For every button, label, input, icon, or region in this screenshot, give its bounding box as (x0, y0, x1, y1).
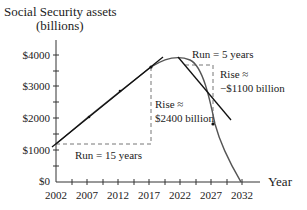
y-tick-label: $0 (39, 175, 51, 187)
point-2017 (149, 65, 152, 68)
chart-title: Social Security assets (4, 4, 117, 19)
point (119, 90, 122, 93)
y-tick-label: $4000 (23, 49, 51, 61)
x-tick-label: 2017 (138, 189, 161, 201)
annotation-rise-label: Rise ≈ (220, 68, 248, 80)
x-tick-label: 2002 (45, 189, 67, 201)
x-axis-label: Year (268, 174, 293, 189)
tangent-line-2017 (52, 57, 163, 147)
y-tick-label: $1000 (23, 144, 51, 156)
x-tick-label: 2012 (107, 189, 129, 201)
x-tick-label: 2032 (231, 189, 253, 201)
chart-title-units: (billions) (36, 18, 84, 33)
point (88, 116, 91, 119)
annotation-run-5: Run = 5 years (192, 48, 254, 60)
annotation-rise-1100: −$1100 billion (220, 82, 285, 94)
chart: Social Security assets (billions) Year $… (0, 0, 307, 210)
annotation-rise-label: Rise ≈ (155, 98, 183, 110)
x-tick-label: 2022 (169, 189, 191, 201)
y-tick-label: $2000 (23, 112, 51, 124)
annotation-run-15: Run = 15 years (75, 149, 142, 161)
annotation-rise-2400: $2400 billion (155, 112, 214, 124)
x-tick-label: 2027 (200, 189, 223, 201)
x-tick-label: 2007 (76, 189, 99, 201)
y-tick-label: $3000 (23, 80, 51, 92)
